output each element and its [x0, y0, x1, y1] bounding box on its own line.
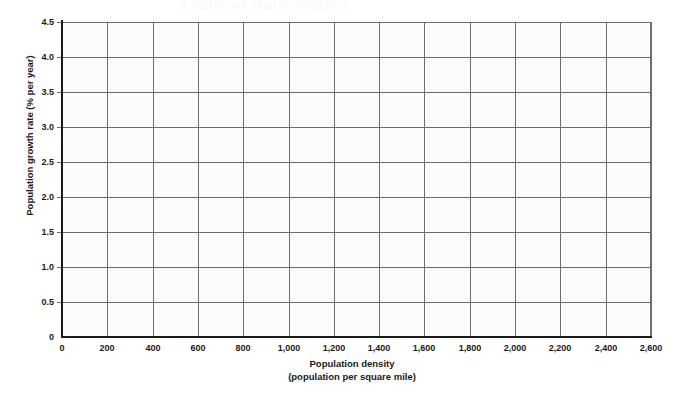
- x-axis-title: Population density (population per squar…: [232, 358, 472, 383]
- gridline-vertical: [515, 22, 516, 337]
- gridline-horizontal: [62, 92, 651, 93]
- gridline-horizontal: [62, 162, 651, 163]
- gridline-vertical: [606, 22, 607, 337]
- gridline-horizontal: [62, 197, 651, 198]
- plot-frame-right: [650, 22, 651, 337]
- gridline-vertical: [424, 22, 425, 337]
- x-axis-title-sub: (population per square mile): [232, 371, 472, 384]
- y-axis-title: Population growth rate (% per year): [24, 16, 35, 256]
- x-axis-line: [61, 336, 652, 338]
- gridline-vertical: [243, 22, 244, 337]
- y-tick-label: 1.0: [4, 262, 54, 272]
- gridline-vertical: [651, 22, 652, 337]
- x-tick-label: 2,600: [621, 343, 681, 353]
- gridline-vertical: [379, 22, 380, 337]
- gridline-vertical: [107, 22, 108, 337]
- gridline-vertical: [560, 22, 561, 337]
- chart-figure: Applying Mathematics 00.51.01.52.02.53.0…: [0, 0, 689, 403]
- gridline-vertical: [470, 22, 471, 337]
- gridline-horizontal: [62, 57, 651, 58]
- gridline-vertical: [198, 22, 199, 337]
- plot-frame-top: [62, 22, 651, 23]
- plot-area: [62, 22, 651, 337]
- ghost-header-text: Applying Mathematics: [178, 0, 508, 10]
- x-axis-title-main: Population density: [232, 358, 472, 371]
- gridline-horizontal: [62, 127, 651, 128]
- gridline-vertical: [289, 22, 290, 337]
- y-tick-label: 0: [4, 332, 54, 342]
- gridline-horizontal: [62, 267, 651, 268]
- y-axis-line: [61, 20, 63, 338]
- y-tick-label: 0.5: [4, 297, 54, 307]
- gridline-vertical: [153, 22, 154, 337]
- gridline-horizontal: [62, 302, 651, 303]
- gridline-vertical: [334, 22, 335, 337]
- gridline-horizontal: [62, 232, 651, 233]
